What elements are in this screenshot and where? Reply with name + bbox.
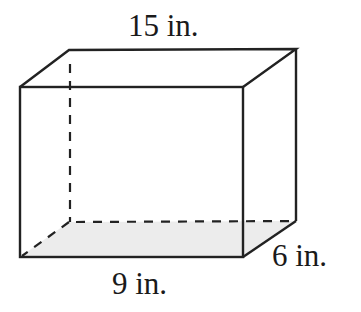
label-front-width: 9 in. [112,268,167,299]
prism-diagram: 15 in. 6 in. 9 in. [0,0,361,312]
label-depth: 6 in. [272,240,327,271]
label-top-length: 15 in. [128,10,199,41]
